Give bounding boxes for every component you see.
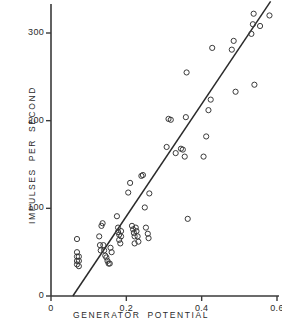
data-point — [114, 214, 119, 219]
data-point — [231, 38, 236, 43]
data-point — [208, 97, 213, 102]
y-tick-label: 200 — [8, 115, 44, 125]
data-points-group — [74, 11, 272, 269]
data-point — [267, 13, 272, 18]
data-point — [173, 151, 178, 156]
data-point — [251, 11, 256, 16]
y-tick-label: 100 — [8, 202, 44, 212]
data-point — [183, 115, 188, 120]
data-point — [126, 190, 131, 195]
plot-canvas — [0, 0, 282, 325]
data-point — [142, 205, 147, 210]
data-point — [143, 225, 148, 230]
data-point — [147, 191, 152, 196]
data-point — [206, 108, 211, 113]
data-point — [252, 82, 257, 87]
data-point — [97, 234, 102, 239]
axes-group — [46, 4, 279, 301]
data-point — [164, 144, 169, 149]
data-point — [201, 154, 206, 159]
data-point — [210, 45, 215, 50]
data-point — [229, 47, 234, 52]
data-point — [104, 255, 109, 260]
data-point — [233, 89, 238, 94]
data-point — [184, 70, 189, 75]
scatter-plot-figure: 0100200300 00.20.40.6 GENERATOR POTENTIA… — [0, 0, 282, 325]
data-point — [128, 180, 133, 185]
y-tick-label: 0 — [8, 290, 44, 300]
data-point — [185, 216, 190, 221]
y-axis-title: IMPULSES PER SECOND — [27, 45, 37, 265]
data-point — [118, 241, 123, 246]
data-point — [204, 134, 209, 139]
data-point — [257, 23, 262, 28]
x-axis-title: GENERATOR POTENTIAL — [0, 310, 282, 320]
data-point — [74, 236, 79, 241]
data-point — [101, 243, 106, 248]
data-point — [182, 154, 187, 159]
y-tick-label: 300 — [8, 27, 44, 37]
